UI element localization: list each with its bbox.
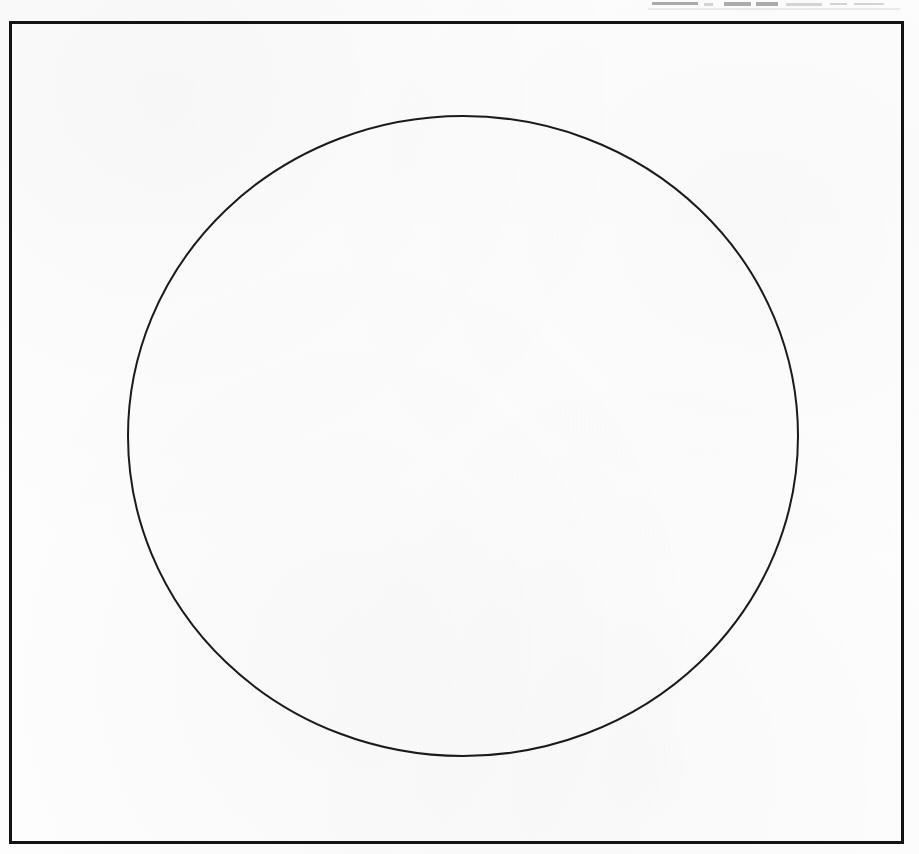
scanned-page: [0, 0, 919, 854]
figure-frame: [9, 21, 904, 844]
top-text-remnant: [648, 0, 910, 11]
